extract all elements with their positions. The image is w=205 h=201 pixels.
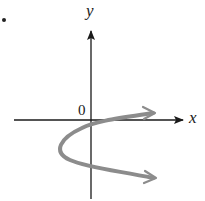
parabola-curve [60, 113, 153, 178]
y-axis-label: y [86, 2, 94, 19]
origin-label: 0 [78, 103, 86, 118]
graph-canvas [0, 0, 205, 201]
parabola-graph: y x 0 [0, 0, 205, 201]
x-axis-label: x [189, 109, 197, 126]
